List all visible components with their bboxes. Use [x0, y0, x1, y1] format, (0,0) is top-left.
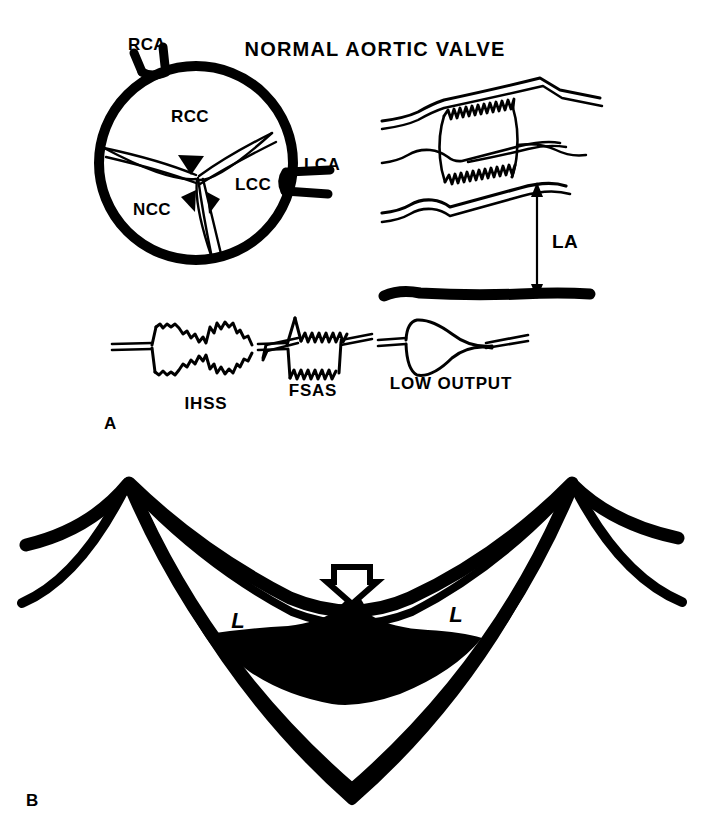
figure-root: RCC NCC LCC RCA LCA NORMAL AORTIC VALVE — [0, 0, 703, 818]
la-measurement-arrow — [531, 182, 543, 299]
artery-label-rca: RCA — [128, 35, 166, 54]
tracing-label-fsas: FSAS — [289, 381, 338, 400]
artery-label-lca: LCA — [304, 155, 340, 174]
la-label: LA — [552, 231, 578, 252]
leaflet-label-left: L — [231, 608, 244, 633]
cusp-label-ncc: NCC — [133, 200, 171, 219]
tracing-ihss: IHSS — [112, 322, 298, 413]
fsas-lower-flutter — [290, 370, 336, 379]
ihss-lower-leaflet — [155, 353, 252, 375]
short-axis-diagram: RCC NCC LCC RCA LCA — [99, 35, 340, 260]
tracing-fsas: FSAS — [258, 318, 372, 400]
m-mode-tracing: LA — [382, 78, 602, 299]
tracing-low-output: LOW OUTPUT — [378, 320, 528, 393]
tracing-label-low-output: LOW OUTPUT — [390, 374, 512, 393]
tracing-label-ihss: IHSS — [185, 394, 228, 413]
low-output-lower-leaflet — [406, 344, 492, 375]
panel-label-b: B — [26, 791, 38, 810]
low-output-upper-leaflet — [406, 320, 492, 346]
valve-flutter-top — [444, 99, 514, 119]
valve-flutter-bottom — [445, 165, 515, 184]
figure-title: NORMAL AORTIC VALVE — [245, 38, 506, 60]
mass-pointer-arrow-icon — [327, 567, 377, 604]
posterior-la-wall — [384, 292, 590, 296]
aortic-valve-box — [440, 99, 518, 184]
ihss-upper-leaflet — [156, 322, 252, 345]
medical-figure-svg: RCC NCC LCC RCA LCA NORMAL AORTIC VALVE — [0, 0, 703, 818]
leaflet-label-right: L — [449, 602, 462, 627]
cusp-label-rcc: RCC — [171, 107, 209, 126]
panel-b-diagram: L L — [22, 483, 682, 800]
panel-label-a: A — [104, 414, 116, 433]
cusp-label-lcc: LCC — [235, 175, 271, 194]
